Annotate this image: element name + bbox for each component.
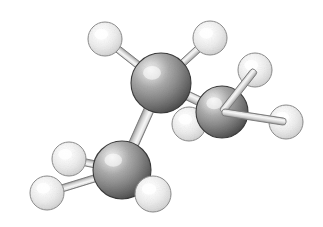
atom-hydrogen-top-left xyxy=(88,22,122,56)
molecule-figure: propane C3H8 xyxy=(0,0,323,227)
atom-hydrogen-lower-left xyxy=(30,176,64,210)
atom-hydrogen-mid-left xyxy=(52,142,86,176)
molecule-canvas xyxy=(0,0,323,227)
atom-carbon-top-left xyxy=(131,53,191,113)
atom-hydrogen-bottom xyxy=(135,176,171,212)
atom-hydrogen-top-right xyxy=(193,21,227,55)
